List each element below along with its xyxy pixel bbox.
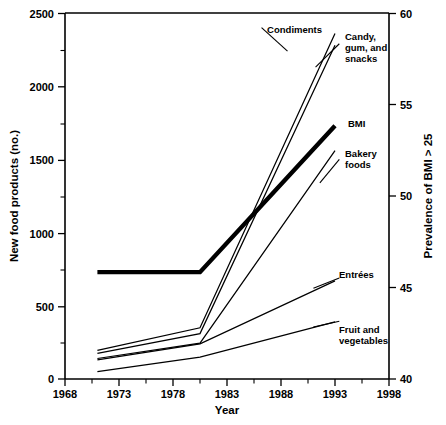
- right-tick-label-40: 40: [400, 373, 412, 385]
- left-tick-label-1500: 1500: [30, 154, 54, 166]
- left-tick-label-2500: 2500: [30, 8, 54, 20]
- left-axis-title: New food products (no.): [8, 130, 20, 262]
- right-tick-label-60: 60: [400, 8, 412, 20]
- left-tick-label-2000: 2000: [30, 81, 54, 93]
- left-tick-label-500: 500: [36, 301, 54, 313]
- right-tick-label-55: 55: [400, 99, 412, 111]
- x-tick-label-1968: 1968: [53, 388, 77, 400]
- x-tick-label-1973: 1973: [107, 388, 131, 400]
- series-label-bakery-line1: Bakery: [345, 148, 377, 159]
- right-tick-label-45: 45: [400, 282, 412, 294]
- right-axis-title: Prevalence of BMI > 25: [422, 133, 434, 259]
- x-tick-label-1983: 1983: [215, 388, 239, 400]
- left-tick-label-0: 0: [48, 373, 54, 385]
- series-label-entrees: Entrées: [339, 269, 374, 280]
- series-label-candy-line1: Candy,: [345, 31, 376, 42]
- right-tick-label-50: 50: [400, 190, 412, 202]
- series-label-candy-line3: snacks: [345, 53, 377, 64]
- series-label-bmi: BMI: [348, 118, 365, 129]
- series-label-fruit-line2: vegetables: [339, 335, 388, 346]
- series-label-candy-line2: gum, and: [345, 42, 387, 53]
- x-tick-label-1998: 1998: [377, 388, 401, 400]
- series-label-fruit-line1: Fruit and: [339, 324, 380, 335]
- chart-svg: 0 500 1000 1500 2000 2500 40 45 50 55 60: [0, 0, 446, 425]
- series-label-condiments: Condiments: [267, 24, 322, 35]
- x-tick-label-1978: 1978: [161, 388, 185, 400]
- chart-figure: 0 500 1000 1500 2000 2500 40 45 50 55 60: [0, 0, 446, 425]
- chart-background: [0, 0, 446, 425]
- bottom-axis-title: Year: [215, 404, 240, 416]
- x-tick-label-1988: 1988: [269, 388, 293, 400]
- x-tick-label-1993: 1993: [323, 388, 347, 400]
- series-label-bakery-line2: foods: [345, 159, 371, 170]
- left-tick-label-1000: 1000: [30, 228, 54, 240]
